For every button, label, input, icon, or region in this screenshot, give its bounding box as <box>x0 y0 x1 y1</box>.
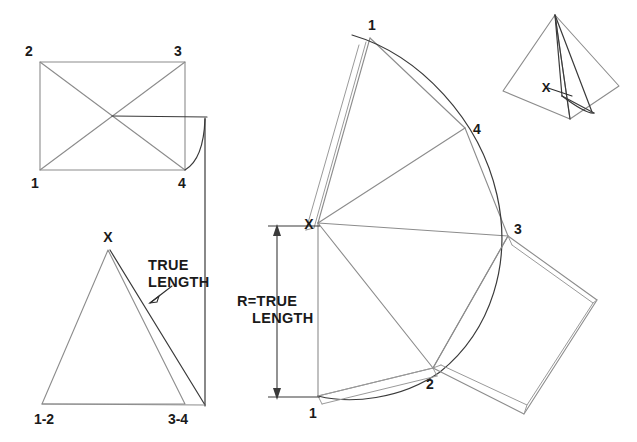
elevation-base-left-label: 1-2 <box>34 411 54 427</box>
horizontal-projector <box>112 116 207 117</box>
top-view-label-4: 4 <box>178 175 186 191</box>
development-label-4: 4 <box>473 121 481 137</box>
development-label-1-top: 1 <box>368 17 376 33</box>
development-fan <box>306 35 508 404</box>
elevation-base-right-label: 3-4 <box>168 411 188 427</box>
development-apex-label: X <box>304 216 314 232</box>
true-length-note-line1: TRUE <box>148 257 189 273</box>
elevation-apex-label: X <box>103 229 113 245</box>
top-view-label-1: 1 <box>31 175 39 191</box>
true-length-note-line2: LENGTH <box>148 274 209 290</box>
development-label-2: 2 <box>426 376 434 392</box>
pyramid-x-leader <box>548 88 572 96</box>
top-view-label-3: 3 <box>174 43 182 59</box>
development-label-1-bot: 1 <box>309 405 317 421</box>
pyramid-apex-label: X <box>542 80 551 95</box>
radius-dimension-label-line2: LENGTH <box>252 310 313 326</box>
drawing-canvas: 2 3 1 4 X 1-2 3-4 TRUE LENGTH X 1 4 3 2 … <box>0 0 637 442</box>
base-quadrilateral <box>433 236 597 414</box>
development-label-3: 3 <box>514 221 522 237</box>
technical-drawing-svg: 2 3 1 4 X 1-2 3-4 TRUE LENGTH X 1 4 3 2 … <box>0 0 637 442</box>
radius-dimension-label-line1: R=TRUE <box>237 293 297 309</box>
pyramid-pictorial <box>503 15 619 119</box>
top-view-label-2: 2 <box>25 43 33 59</box>
swing-arc <box>185 119 205 170</box>
